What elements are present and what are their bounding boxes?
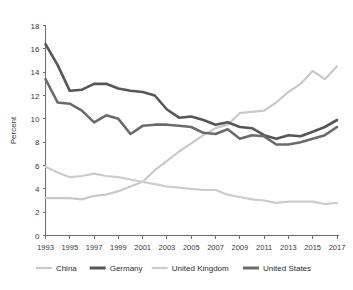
chart-svg: 024681012141618 199319951997199920012003… xyxy=(0,0,353,290)
x-axis: 1993199519971999200120032005200720092011… xyxy=(37,236,345,252)
x-tick-label: 2007 xyxy=(207,243,224,252)
x-tick-label: 1999 xyxy=(110,243,127,252)
x-tick-label: 2011 xyxy=(256,243,272,252)
y-tick-label: 4 xyxy=(35,185,40,194)
x-tick-label: 1995 xyxy=(61,243,78,252)
chart-legend: ChinaGermanyUnited KingdomUnited States xyxy=(36,264,311,273)
legend-label-germany: Germany xyxy=(110,264,143,273)
y-tick-label: 18 xyxy=(31,22,40,31)
x-tick-label: 2003 xyxy=(159,243,176,252)
y-tick-label: 16 xyxy=(31,45,40,54)
y-axis-title: Percent xyxy=(9,116,18,144)
y-tick-label: 6 xyxy=(35,162,40,171)
line-chart-figure: 024681012141618 199319951997199920012003… xyxy=(0,0,353,290)
series-line-germany xyxy=(46,44,338,139)
y-tick-label: 2 xyxy=(35,208,40,217)
x-tick-label: 2013 xyxy=(280,243,297,252)
legend-label-china: China xyxy=(56,264,77,273)
x-tick-label: 2017 xyxy=(329,243,346,252)
legend-label-united-states: United States xyxy=(263,264,311,273)
y-tick-label: 8 xyxy=(35,138,40,147)
y-axis: 024681012141618 xyxy=(31,22,46,241)
y-tick-label: 10 xyxy=(31,115,40,124)
x-tick-label: 1997 xyxy=(86,243,103,252)
y-tick-label: 0 xyxy=(35,232,40,241)
y-tick-label: 12 xyxy=(31,92,40,101)
x-tick-label: 2005 xyxy=(183,243,200,252)
y-tick-label: 14 xyxy=(31,68,40,77)
series-lines xyxy=(46,44,338,204)
x-tick-label: 2001 xyxy=(134,243,151,252)
series-line-united-kingdom xyxy=(46,167,338,204)
x-tick-label: 1993 xyxy=(37,243,54,252)
x-tick-label: 2009 xyxy=(231,243,248,252)
x-tick-label: 2015 xyxy=(304,243,321,252)
legend-label-united-kingdom: United Kingdom xyxy=(172,264,229,273)
